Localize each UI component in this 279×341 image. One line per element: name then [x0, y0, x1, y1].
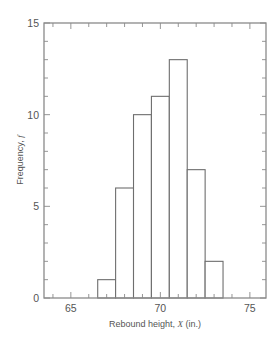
- histogram-bars: [98, 60, 223, 298]
- y-label-text: Frequency,: [15, 138, 25, 185]
- histogram-bar: [151, 96, 169, 298]
- x-tick-label: 65: [65, 302, 77, 314]
- histogram-bar: [169, 60, 187, 298]
- y-tick-label: 10: [27, 109, 39, 121]
- x-tick-label: 70: [155, 302, 167, 314]
- x-axis-label: Rebound height, X (in.): [109, 319, 201, 329]
- x-tick-label: 75: [244, 302, 256, 314]
- x-label-units: (in.): [183, 319, 201, 329]
- x-label-text: Rebound height,: [109, 319, 178, 329]
- y-tick-label: 0: [33, 292, 39, 304]
- y-tick-label: 5: [33, 200, 39, 212]
- histogram-bar: [134, 115, 152, 298]
- y-axis-label: Frequency, f: [15, 134, 25, 185]
- histogram-chart: 657075 051015 Rebound height, X (in.) Fr…: [0, 0, 279, 341]
- histogram-bar: [205, 261, 223, 298]
- y-tick-label: 15: [27, 17, 39, 29]
- y-label-variable: f: [15, 134, 25, 138]
- histogram-bar: [187, 170, 205, 298]
- x-tick-labels: 657075: [65, 302, 256, 314]
- histogram-bar: [116, 188, 134, 298]
- y-tick-labels: 051015: [27, 17, 39, 304]
